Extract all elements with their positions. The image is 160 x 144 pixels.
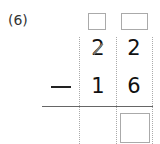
- problem-label: (6): [8, 12, 28, 28]
- minus-sign: [51, 86, 71, 88]
- column-divider-left: [79, 37, 80, 144]
- subtrahend-ones-digit: 6: [121, 74, 147, 98]
- sum-rule-line: [42, 106, 153, 107]
- subtrahend-tens-digit: 1: [85, 74, 111, 98]
- minuend-ones-digit: 2: [121, 36, 147, 60]
- carry-box-ones[interactable]: [121, 13, 148, 30]
- carry-box-tens[interactable]: [88, 13, 106, 30]
- column-divider-right: [152, 37, 153, 144]
- answer-box-ones[interactable]: [120, 113, 150, 143]
- column-divider-middle: [116, 37, 117, 144]
